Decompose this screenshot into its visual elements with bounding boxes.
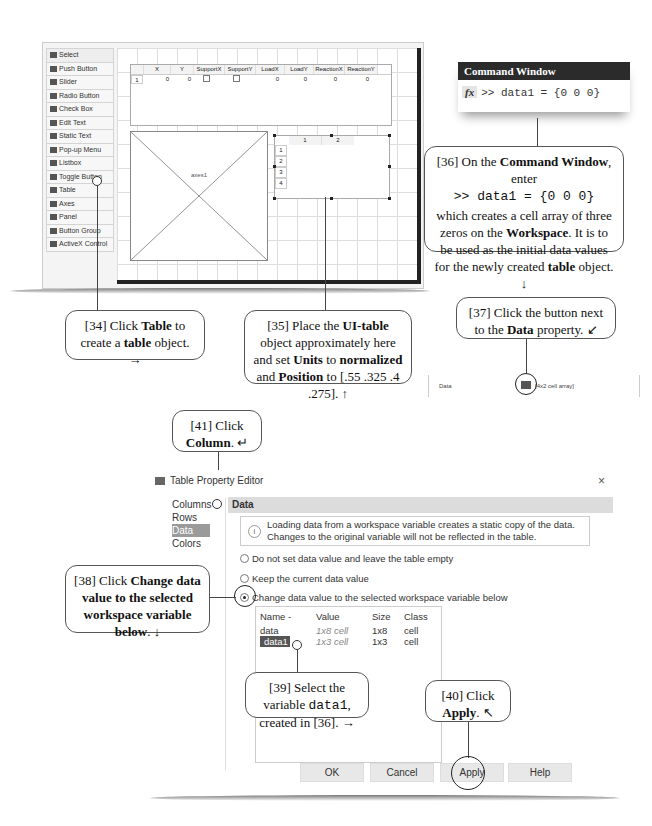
callout-36: [36] On the Command Window, enter >> dat… <box>424 146 624 252</box>
highlight-ring <box>234 585 256 607</box>
data1-marker-ring <box>292 640 302 650</box>
ok-button[interactable]: OK <box>300 763 364 782</box>
slider-icon <box>50 79 57 85</box>
command-line[interactable]: fx>> data1 = {0 0 0} <box>458 80 630 105</box>
table-editor-icon <box>155 477 165 485</box>
palette-edit-text[interactable]: Edit Text <box>46 117 114 131</box>
uitable2-header: 1 2 <box>289 136 389 145</box>
palette-check-box[interactable]: Check Box <box>46 103 114 117</box>
list-item[interactable]: data 1x8 cell 1x8 cell <box>256 625 441 636</box>
edit-text-icon <box>50 120 57 126</box>
list-item-selected[interactable]: data1 1x3 cell 1x3 cell <box>256 636 441 647</box>
uitable-new[interactable]: 1 2 1 2 3 4 <box>274 135 390 199</box>
callout-38: [38] Click Change data value to the sele… <box>65 565 210 633</box>
palette-panel[interactable]: Panel <box>46 211 114 225</box>
select-arrow-icon <box>50 52 57 58</box>
nav-colors[interactable]: Colors <box>160 537 225 550</box>
palette-toggle-button[interactable]: Toggle Button <box>46 171 114 185</box>
palette-select[interactable]: Select <box>46 48 114 63</box>
highlight-ring <box>451 756 485 790</box>
help-button[interactable]: Help <box>508 763 572 782</box>
leader-line <box>297 650 298 672</box>
palette-popup-menu[interactable]: Pop-up Menu <box>46 144 114 158</box>
dialog-nav: Columns Rows Data Colors <box>160 498 226 770</box>
uitable2-rows: 1 2 3 4 <box>275 145 287 189</box>
popup-menu-icon <box>50 147 57 153</box>
axes-icon <box>50 201 57 207</box>
palette-radio-button[interactable]: Radio Button <box>46 90 114 104</box>
info-icon: i <box>248 525 261 538</box>
callout-37: [37] Click the button next to the Data p… <box>456 297 616 339</box>
check-box-icon <box>50 106 57 112</box>
palette-table[interactable]: Table <box>46 184 114 198</box>
leader-line <box>537 118 538 146</box>
palette-slider[interactable]: Slider <box>46 76 114 90</box>
leader-line <box>97 186 98 310</box>
resize-handle[interactable] <box>273 165 276 168</box>
dialog-title-bar: Table Property Editor <box>155 475 263 486</box>
leader-line <box>210 597 236 598</box>
callout-40: [40] Click Apply. ↖ <box>425 680 511 722</box>
button-group-icon <box>50 228 57 234</box>
activex-icon <box>50 241 57 247</box>
toggle-button-icon <box>50 174 57 180</box>
supporty-checkbox[interactable] <box>221 75 251 84</box>
resize-handle[interactable] <box>273 197 276 200</box>
radio-icon[interactable] <box>240 554 249 563</box>
columns-marker-ring <box>212 499 222 509</box>
table-row: 1 0 0 0 0 0 0 <box>131 75 391 84</box>
leader-line <box>526 339 527 373</box>
leader-line <box>325 197 326 311</box>
radio-icon[interactable] <box>240 574 249 583</box>
nav-data[interactable]: Data <box>172 524 210 537</box>
section-header: Data <box>228 497 613 513</box>
radio-button-icon <box>50 93 57 99</box>
palette-axes[interactable]: Axes <box>46 198 114 212</box>
palette-listbox[interactable]: Listbox <box>46 157 114 171</box>
resize-handle[interactable] <box>273 134 276 137</box>
resize-handle[interactable] <box>388 197 391 200</box>
cancel-button[interactable]: Cancel <box>370 763 434 782</box>
uitable-nodes[interactable]: X Y SupportX SupportY LoadX LoadY Reacti… <box>130 64 392 126</box>
table-icon <box>50 187 57 193</box>
command-window[interactable]: Command Window fx>> data1 = {0 0 0} <box>458 62 630 112</box>
command-window-title: Command Window <box>458 62 630 80</box>
palette-button-group[interactable]: Button Group <box>46 225 114 239</box>
palette-static-text[interactable]: Static Text <box>46 130 114 144</box>
callout-41: [41] Click Column. ↵ <box>172 410 262 452</box>
info-message: i Loading data from a workspace variable… <box>240 516 590 546</box>
page-shadow <box>10 288 430 294</box>
palette-activex-control[interactable]: ActiveX Control <box>46 238 114 252</box>
supportx-checkbox[interactable] <box>191 75 221 84</box>
table-marker-ring <box>92 176 102 186</box>
callout-39: [39] Select the variable data1, created … <box>245 672 369 718</box>
leader-line <box>468 722 469 758</box>
resize-handle[interactable] <box>388 134 391 137</box>
callout-34: [34] Click Table to create a table objec… <box>65 310 205 360</box>
fx-icon: fx <box>462 86 477 98</box>
nav-rows[interactable]: Rows <box>160 511 225 524</box>
resize-handle[interactable] <box>330 134 333 137</box>
option-change-to-variable[interactable]: Change data value to the selected worksp… <box>240 592 508 603</box>
palette-push-button[interactable]: Push Button <box>46 63 114 77</box>
component-palette: Select Push Button Slider Radio Button C… <box>46 48 114 252</box>
option-leave-empty[interactable]: Do not set data value and leave the tabl… <box>240 553 453 564</box>
axes-placeholder[interactable]: axes1 <box>130 131 268 261</box>
highlight-ring <box>515 373 537 395</box>
resize-handle[interactable] <box>330 197 333 200</box>
close-icon[interactable]: × <box>598 474 605 488</box>
static-text-icon <box>50 133 57 139</box>
listbox-icon <box>50 160 57 166</box>
variable-list-header: Name - Value Size Class <box>256 611 441 622</box>
option-keep-current[interactable]: Keep the current data value <box>240 573 369 584</box>
page-shadow <box>150 795 620 801</box>
callout-35: [35] Place the UI-table object approxima… <box>244 310 412 384</box>
axes-cross-icon <box>131 132 267 260</box>
panel-icon <box>50 214 57 220</box>
push-button-icon <box>50 66 57 72</box>
resize-handle[interactable] <box>388 165 391 168</box>
uitable-header: X Y SupportX SupportY LoadX LoadY Reacti… <box>131 65 391 75</box>
